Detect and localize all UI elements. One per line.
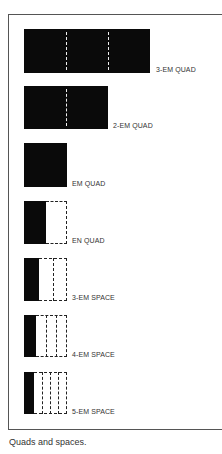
figure-caption: Quads and spaces.	[9, 437, 87, 447]
three-em-quad-glyph	[24, 29, 150, 73]
two-em-quad-label: 2-EM QUAD	[113, 122, 153, 129]
two-em-quad-glyph	[24, 86, 108, 129]
em-quad-glyph	[24, 143, 67, 187]
five-em-space-label: 5-EM SPACE	[72, 408, 115, 415]
en-quad-label: EN QUAD	[72, 237, 105, 244]
three-em-quad-label: 3-EM QUAD	[156, 66, 196, 73]
three-em-space-glyph	[24, 258, 67, 301]
four-em-space-glyph	[24, 315, 67, 357]
en-quad-glyph	[24, 201, 67, 244]
three-em-space-label: 3-EM SPACE	[72, 294, 115, 301]
em-quad-label: EM QUAD	[72, 180, 105, 187]
four-em-space-label: 4-EM SPACE	[72, 351, 115, 358]
five-em-space-glyph	[24, 372, 67, 414]
